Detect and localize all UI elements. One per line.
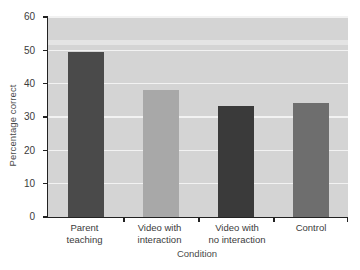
y-tick-0: 0: [43, 216, 48, 218]
y-tick-10: 10: [43, 183, 48, 185]
y-tick-label-0: 0: [29, 211, 35, 222]
bar-3[interactable]: [293, 103, 329, 217]
y-tick-label-10: 10: [24, 177, 35, 188]
bar-2[interactable]: [218, 106, 254, 217]
y-tick-label-60: 60: [24, 11, 35, 22]
y-tick-40: 40: [43, 83, 48, 85]
gridline-60: [48, 16, 348, 18]
y-tick-label-40: 40: [24, 77, 35, 88]
x-tick-label-2-line1: Video with: [215, 222, 259, 233]
y-tick-60: 60: [43, 16, 48, 18]
x-tick-label-2-line2: no interaction: [197, 234, 277, 246]
x-tick-label-3: Control: [275, 222, 347, 234]
gridline-50: [48, 50, 348, 52]
x-tick-label-1-line2: interaction: [122, 234, 197, 246]
x-tick-label-0-line2: teaching: [47, 234, 122, 246]
y-tick-label-20: 20: [24, 144, 35, 155]
plot-area: 0102030405060: [47, 17, 348, 218]
bar-chart-figure: Percentage correct 0102030405060 Parent …: [0, 0, 360, 270]
y-axis-title-text: Percentage correct: [7, 84, 18, 166]
y-tick-30: 30: [43, 116, 48, 118]
x-axis-title: Condition: [47, 248, 347, 259]
bar-0[interactable]: [68, 52, 104, 217]
y-tick-20: 20: [43, 150, 48, 152]
background-band: [48, 40, 348, 45]
x-tick-label-3-line1: Control: [296, 222, 327, 233]
x-tick-label-1-line1: Video with: [138, 222, 182, 233]
y-axis-title: Percentage correct: [4, 60, 20, 190]
x-tick-label-1: Video with interaction: [122, 222, 197, 245]
y-tick-label-30: 30: [24, 111, 35, 122]
x-tick-label-0-line1: Parent: [71, 222, 99, 233]
y-tick-label-50: 50: [24, 44, 35, 55]
bar-1[interactable]: [143, 90, 179, 217]
x-tick-label-0: Parent teaching: [47, 222, 122, 245]
x-tick-label-2: Video with no interaction: [197, 222, 277, 245]
y-tick-50: 50: [43, 50, 48, 52]
